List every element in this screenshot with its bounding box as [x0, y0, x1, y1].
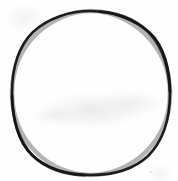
- circle-svg: [0, 0, 178, 181]
- drawing-layer: [0, 0, 178, 181]
- circle-ink-halo: [12, 11, 170, 175]
- scanned-image-canvas: A single hand-drawn circle outline in da…: [0, 0, 178, 181]
- paper-speck-artifact: [150, 171, 152, 173]
